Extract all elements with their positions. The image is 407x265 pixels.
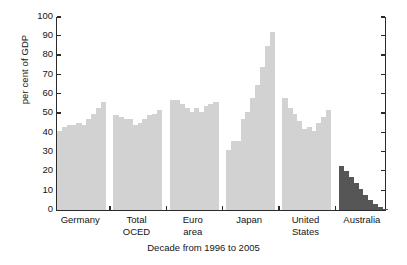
- x-tick-mark: [278, 206, 279, 210]
- y-tick-mark: 80: [57, 54, 61, 55]
- y-tick-mark-right: [381, 132, 385, 133]
- y-tick-label: 10: [42, 185, 53, 195]
- group-label-line: Euro: [169, 214, 217, 226]
- y-tick-label: 80: [42, 50, 53, 60]
- y-tick-mark-right: [381, 93, 385, 94]
- group-label-japan: Japan: [225, 214, 273, 226]
- x-tick-mark: [222, 206, 223, 210]
- y-tick-label: 60: [42, 88, 53, 98]
- y-axis-title: per cent of GDP: [19, 0, 30, 140]
- y-tick-mark: 50: [57, 112, 61, 113]
- y-tick-mark: 70: [57, 74, 61, 75]
- group-label-euro-area: Euroarea: [169, 214, 217, 237]
- y-tick-mark-right: [381, 35, 385, 36]
- y-tick-mark-right: [381, 54, 385, 55]
- y-tick-label: 100: [37, 11, 53, 21]
- group-label-line: States: [281, 226, 329, 238]
- x-tick-mark: [166, 206, 167, 210]
- y-tick-mark-right: [381, 112, 385, 113]
- y-tick-mark-right: [381, 16, 385, 17]
- x-axis-title: Decade from 1996 to 2005: [0, 242, 407, 253]
- bar: [382, 209, 387, 210]
- y-tick-label: 30: [42, 146, 53, 156]
- y-tick-label: 70: [42, 69, 53, 79]
- group-label-line: OCED: [112, 226, 160, 238]
- y-tick-mark-right: [381, 170, 385, 171]
- y-tick-mark-right: [381, 151, 385, 152]
- group-label-line: United: [281, 214, 329, 226]
- plot-area: 0102030405060708090100: [56, 18, 386, 211]
- bar: [326, 110, 331, 210]
- group-label-australia: Australia: [338, 214, 386, 226]
- x-tick-mark: [335, 206, 336, 210]
- y-tick-mark: 100: [57, 16, 61, 17]
- group-label-line: Total: [112, 214, 160, 226]
- group-label-united-states: UnitedStates: [281, 214, 329, 237]
- group-label-line: Japan: [225, 214, 273, 226]
- y-tick-mark: 90: [57, 35, 61, 36]
- bar: [157, 110, 162, 210]
- group-label-line: Australia: [338, 214, 386, 226]
- y-tick-mark: 60: [57, 93, 61, 94]
- group-label-line: Germany: [56, 214, 104, 226]
- x-tick-mark: [109, 206, 110, 210]
- y-tick-label: 90: [42, 30, 53, 40]
- y-tick-mark-right: [381, 74, 385, 75]
- group-label-germany: Germany: [56, 214, 104, 226]
- y-tick-label: 20: [42, 165, 53, 175]
- y-tick-mark-right: [381, 190, 385, 191]
- group-label-line: area: [169, 226, 217, 238]
- bar: [101, 102, 106, 210]
- y-tick-label: 0: [48, 204, 53, 214]
- bar-chart-figure: per cent of GDP 0102030405060708090100 G…: [0, 0, 407, 265]
- bar: [270, 32, 275, 210]
- y-tick-label: 50: [42, 108, 53, 118]
- group-label-total-oced: TotalOCED: [112, 214, 160, 237]
- bar: [213, 102, 218, 210]
- y-tick-label: 40: [42, 127, 53, 137]
